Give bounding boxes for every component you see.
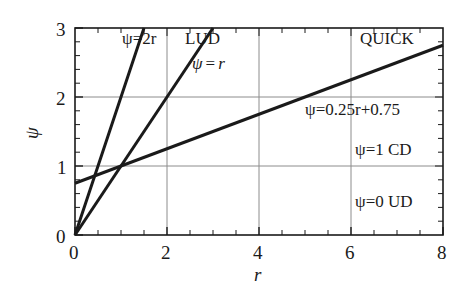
annotation-psi-r-variable: r	[218, 54, 225, 73]
annotation-psi-r-equals: =	[206, 54, 216, 73]
x-tick-label-2: 2	[161, 243, 171, 262]
y-axis-title: ψ	[21, 127, 43, 139]
y-tick-label-1: 1	[57, 158, 67, 177]
sweby-diagram-figure: 0 2 4 6 8 0 1 2 3 r ψ ψ=2r LUD ψ=r QUICK…	[0, 0, 473, 292]
annotation-psi-2r: ψ=2r	[122, 30, 156, 48]
x-tick-label-8: 8	[437, 243, 447, 262]
annotation-psi-ud: ψ=0 UD	[355, 193, 413, 211]
annotation-quick: QUICK	[360, 30, 414, 48]
x-tick-label-4: 4	[253, 243, 263, 262]
x-tick-label-0: 0	[69, 243, 79, 262]
annotation-psi-r-symbol: ψ	[192, 54, 203, 73]
annotation-lud: LUD	[185, 30, 220, 48]
y-tick-label-0: 0	[56, 227, 66, 246]
y-tick-label-2: 2	[56, 89, 66, 108]
annotation-psi-quick-expression: ψ=0.25r+0.75	[305, 101, 400, 119]
x-axis-title: r	[254, 264, 261, 286]
annotation-psi-cd: ψ=1 CD	[355, 141, 412, 159]
annotation-psi-r: ψ=r	[192, 55, 225, 73]
x-tick-label-6: 6	[345, 243, 355, 262]
y-tick-label-3: 3	[56, 20, 66, 39]
